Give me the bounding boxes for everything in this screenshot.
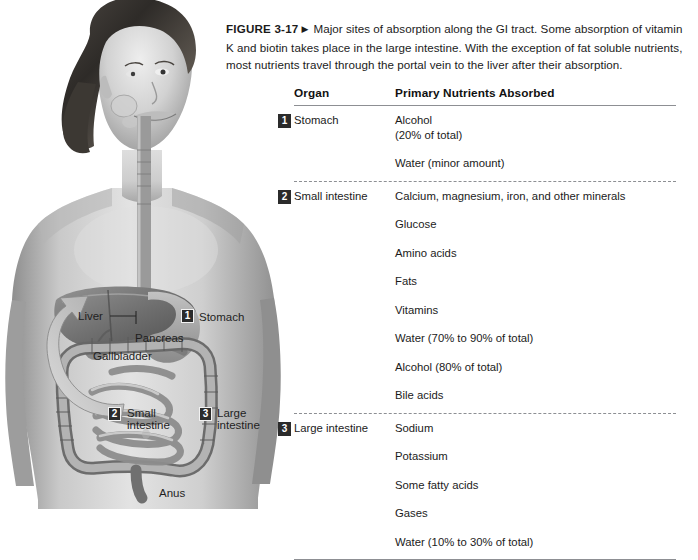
- nutrient-item: Alcohol (80% of total): [395, 360, 676, 375]
- label-small-intestine: Small intestine: [127, 407, 170, 431]
- table-row-large-intestine: 3 Large intestine Sodium Potassium Some …: [294, 414, 676, 560]
- row-nutrients-large-intestine: Sodium Potassium Some fatty acids Gases …: [395, 414, 676, 560]
- anatomy-figure-svg: [0, 0, 292, 509]
- illustration-badge-1: 1: [181, 309, 194, 323]
- illustration-badge-3: 3: [199, 407, 212, 421]
- table-row-small-intestine: 2 Small intestine Calcium, magnesium, ir…: [294, 182, 676, 413]
- liver-leader-line: [108, 310, 154, 326]
- label-stomach: Stomach: [199, 311, 244, 323]
- nutrient-item: Potassium: [395, 449, 676, 464]
- table-header-row: Organ Primary Nutrients Absorbed: [294, 86, 676, 105]
- nutrient-item: Gases: [395, 506, 676, 521]
- esophagus: [137, 116, 151, 300]
- row-nutrients-stomach: Alcohol (20% of total) Water (minor amou…: [395, 106, 676, 181]
- label-small-intestine-line2: intestine: [127, 419, 170, 431]
- row-organ-stomach: Stomach: [294, 106, 395, 181]
- row-badge-3: 3: [278, 422, 291, 436]
- label-anus: Anus: [159, 487, 185, 499]
- row-badge-1: 1: [278, 114, 291, 128]
- label-pancreas: Pancreas: [135, 332, 184, 344]
- gi-tract-illustration: Liver Pancreas Gallbladder 1 Stomach 2 S…: [0, 0, 292, 509]
- table-row-stomach: 1 Stomach Alcohol (20% of total) Water (…: [294, 106, 676, 181]
- nutrient-main: Alcohol: [395, 114, 432, 126]
- nutrient-item: Water (70% to 90% of total): [395, 331, 676, 346]
- nutrient-item: Glucose: [395, 217, 676, 232]
- nutrient-item: Fats: [395, 274, 676, 289]
- label-large-intestine-line2: intestine: [217, 419, 260, 431]
- nutrient-item: Alcohol (20% of total): [395, 113, 676, 142]
- illustration-badge-2: 2: [108, 407, 121, 421]
- nutrient-item: Water (10% to 30% of total): [395, 535, 676, 550]
- header-organ: Organ: [294, 86, 395, 100]
- label-large-intestine: Large intestine: [217, 407, 260, 431]
- nutrient-item: Sodium: [395, 421, 676, 436]
- nutrient-item: Amino acids: [395, 246, 676, 261]
- label-gallbladder: Gallbladder: [93, 350, 152, 362]
- row-nutrients-small-intestine: Calcium, magnesium, iron, and other mine…: [395, 182, 676, 413]
- figure-number: FIGURE 3-17: [226, 22, 298, 35]
- nutrient-sub: (20% of total): [395, 128, 676, 143]
- nutrient-item: Vitamins: [395, 303, 676, 318]
- row-organ-small-intestine: Small intestine: [294, 182, 395, 413]
- header-nutrients: Primary Nutrients Absorbed: [395, 86, 676, 100]
- label-large-intestine-line1: Large: [217, 407, 246, 419]
- nutrient-item: Water (minor amount): [395, 156, 676, 171]
- row-organ-large-intestine: Large intestine: [294, 414, 395, 560]
- absorption-table: Organ Primary Nutrients Absorbed 1 Stoma…: [294, 86, 676, 560]
- nutrient-item: Bile acids: [395, 388, 676, 403]
- triangle-marker-icon: ▶: [301, 21, 308, 39]
- row-badge-2: 2: [278, 190, 291, 204]
- nutrient-item: Calcium, magnesium, iron, and other mine…: [395, 189, 676, 204]
- label-small-intestine-line1: Small: [127, 407, 156, 419]
- figure-caption: FIGURE 3-17▶Major sites of absorption al…: [226, 20, 692, 74]
- nutrient-item: Some fatty acids: [395, 478, 676, 493]
- label-liver: Liver: [78, 310, 103, 322]
